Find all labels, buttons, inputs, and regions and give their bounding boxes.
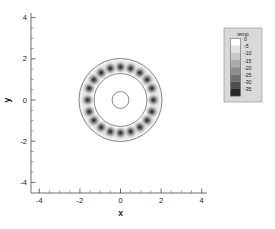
hotspot: [103, 61, 118, 76]
colorbar-label: 0: [244, 36, 247, 42]
x-tick-label: 2: [159, 196, 163, 205]
colorbar-legend: temp 0 -5 -10 -15 -20 -25: [224, 28, 262, 102]
colorbar-label: -5: [244, 43, 249, 49]
plot-canvas: -4 -2 0 2 4 -4 -2 0 2 4 x y temp: [0, 0, 275, 229]
colorbar-band: [231, 46, 241, 53]
colorbar-label: -25: [244, 72, 252, 78]
colorbar-band: [231, 53, 241, 60]
x-tick-label: -4: [36, 196, 43, 205]
colorbar-band: [231, 39, 241, 46]
colorbar-label: -15: [244, 58, 252, 64]
colorbar-ramp: [231, 39, 241, 97]
y-tick-label: 0: [23, 96, 27, 105]
colorbar-band: [231, 75, 241, 82]
colorbar-band: [231, 60, 241, 67]
colorbar-band: [231, 89, 241, 96]
x-tick-label: -2: [77, 196, 84, 205]
colorbar-label: -10: [244, 50, 252, 56]
colorbar-label: -20: [244, 65, 252, 71]
colorbar-band: [231, 82, 241, 89]
y-tick-label: -2: [20, 137, 27, 146]
y-tick-label: -4: [20, 178, 27, 187]
x-axis-title: x: [118, 208, 123, 218]
colorbar-band: [231, 67, 241, 74]
y-axis-title: y: [2, 97, 12, 102]
y-tick-label: 4: [23, 13, 27, 22]
y-tick-label: 2: [23, 54, 27, 63]
legend-panel: [224, 28, 262, 102]
colorbar-label: -35: [244, 86, 252, 92]
contour-field: [76, 56, 165, 145]
colorbar-label: -30: [244, 79, 252, 85]
x-tick-label: 0: [118, 196, 122, 205]
contour-plot-figure: -4 -2 0 2 4 -4 -2 0 2 4 x y temp: [0, 0, 275, 229]
x-tick-label: 4: [200, 196, 204, 205]
